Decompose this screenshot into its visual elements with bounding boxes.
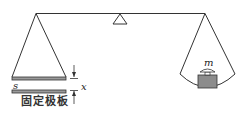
weight-block bbox=[198, 75, 217, 88]
left-string-left bbox=[12, 14, 36, 78]
gap-label: x bbox=[81, 82, 87, 92]
weight-handle bbox=[200, 69, 215, 72]
right-string-left bbox=[180, 14, 205, 75]
gap-arrow-top-head bbox=[72, 72, 76, 77]
mass-label: m bbox=[204, 58, 213, 68]
movable-plate bbox=[12, 77, 66, 80]
fixed-plate-caption: 固定极板 bbox=[21, 96, 69, 107]
left-string-right bbox=[36, 14, 66, 78]
fulcrum-triangle bbox=[113, 14, 127, 24]
fixed-plate bbox=[12, 90, 66, 93]
plate-area-label: s bbox=[13, 81, 18, 91]
weight-neck bbox=[205, 72, 210, 75]
